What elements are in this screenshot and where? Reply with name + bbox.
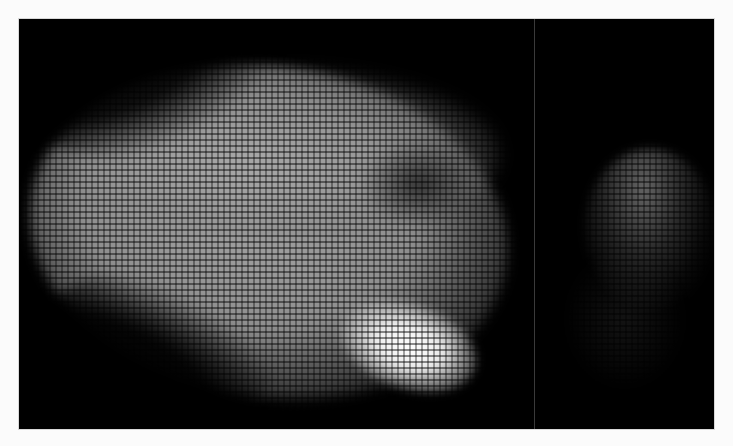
- left-image-panel: [19, 19, 534, 429]
- dark-corner-mask: [19, 269, 279, 429]
- figure-frame: Two-panel grayscale imaging figure with …: [19, 19, 714, 429]
- dark-patch: [359, 139, 479, 229]
- faint-region: [565, 249, 685, 389]
- right-image-panel: [535, 19, 714, 429]
